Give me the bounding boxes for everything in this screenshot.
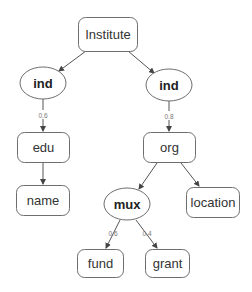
tree-diagram: 0.6 0.8 0.6 0.4 Institute ind ind edu — [0, 0, 252, 292]
edge-weight-label: 0.6 — [108, 230, 117, 237]
node-label: Institute — [85, 27, 131, 42]
node-label: name — [27, 193, 60, 208]
node-grant: grant — [146, 250, 190, 278]
edge-ind-left-edu: 0.6 — [36, 99, 50, 131]
node-name: name — [17, 186, 70, 216]
node-fund: fund — [78, 250, 124, 278]
node-label: ind — [159, 78, 179, 93]
node-label: org — [160, 140, 179, 155]
edge-ind-right-org: 0.8 — [162, 101, 176, 131]
node-org: org — [144, 133, 196, 163]
edge-weight-label: 0.8 — [164, 113, 173, 120]
edge-weight-label: 0.6 — [38, 112, 47, 119]
edge-institute-ind-left — [59, 51, 86, 71]
node-label: fund — [88, 256, 113, 271]
node-edu: edu — [18, 133, 70, 163]
node-ind-right: ind — [146, 69, 192, 101]
node-label: edu — [33, 140, 55, 155]
edge-mux-fund: 0.6 — [106, 220, 120, 248]
node-ind-left: ind — [20, 67, 66, 99]
node-mux: mux — [104, 188, 150, 220]
edge-weight-label: 0.4 — [142, 230, 151, 237]
edge-org-location — [181, 163, 199, 186]
node-label: grant — [153, 256, 183, 271]
node-institute: Institute — [79, 18, 138, 52]
node-location: location — [187, 188, 240, 218]
node-label: mux — [114, 197, 142, 212]
edge-mux-grant: 0.4 — [136, 220, 157, 248]
edge-institute-ind-right — [128, 51, 154, 73]
node-label: ind — [33, 76, 53, 91]
edge-org-mux — [139, 163, 157, 189]
node-label: location — [191, 195, 236, 210]
